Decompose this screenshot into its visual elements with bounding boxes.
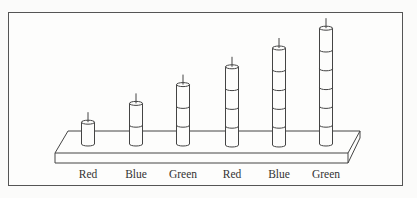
board bbox=[55, 131, 360, 163]
rod-blue-2 bbox=[273, 38, 286, 147]
label-red-2: Red bbox=[223, 168, 242, 180]
rod-green-2 bbox=[320, 18, 333, 146]
label-green-2: Green bbox=[312, 168, 340, 180]
label-blue-1: Blue bbox=[125, 168, 147, 180]
rod-red-2 bbox=[226, 57, 239, 147]
rod-diagram bbox=[0, 0, 417, 198]
rod-blue-1 bbox=[130, 93, 143, 146]
rod-green-1 bbox=[177, 75, 190, 146]
label-blue-2: Blue bbox=[268, 168, 290, 180]
rod-red-1 bbox=[82, 112, 95, 146]
label-red-1: Red bbox=[79, 168, 98, 180]
label-green-1: Green bbox=[169, 168, 197, 180]
rods-group bbox=[82, 18, 333, 147]
